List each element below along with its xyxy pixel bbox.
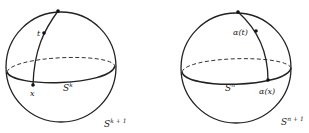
meridian-arc bbox=[238, 12, 268, 80]
label-sn: Sn bbox=[225, 81, 235, 93]
equator-back bbox=[182, 59, 291, 72]
label-x: x bbox=[30, 89, 35, 98]
point-alpha-x bbox=[266, 78, 270, 82]
equator-back bbox=[7, 57, 115, 72]
spheres-diagram: t x Sk Sk + 1 α(t) α(x) Sn Sn + 1 bbox=[0, 0, 309, 133]
label-sk: Sk bbox=[63, 81, 73, 93]
equator-front bbox=[7, 66, 115, 83]
sphere-outline bbox=[6, 12, 116, 122]
right-sphere: α(t) α(x) Sn Sn + 1 bbox=[181, 10, 304, 127]
equator-front bbox=[182, 68, 291, 84]
label-sk1: Sk + 1 bbox=[104, 117, 126, 129]
left-sphere: t x Sk Sk + 1 bbox=[6, 9, 126, 129]
north-pole-point bbox=[56, 9, 60, 13]
north-pole-point bbox=[236, 10, 240, 14]
point-alpha-t bbox=[254, 29, 258, 33]
label-alpha-t: α(t) bbox=[233, 28, 248, 37]
label-t: t bbox=[37, 29, 41, 38]
label-alpha-x: α(x) bbox=[259, 87, 275, 96]
point-x bbox=[31, 83, 35, 87]
meridian-arc bbox=[33, 11, 58, 85]
point-t bbox=[42, 31, 46, 35]
label-sn1: Sn + 1 bbox=[281, 115, 304, 127]
